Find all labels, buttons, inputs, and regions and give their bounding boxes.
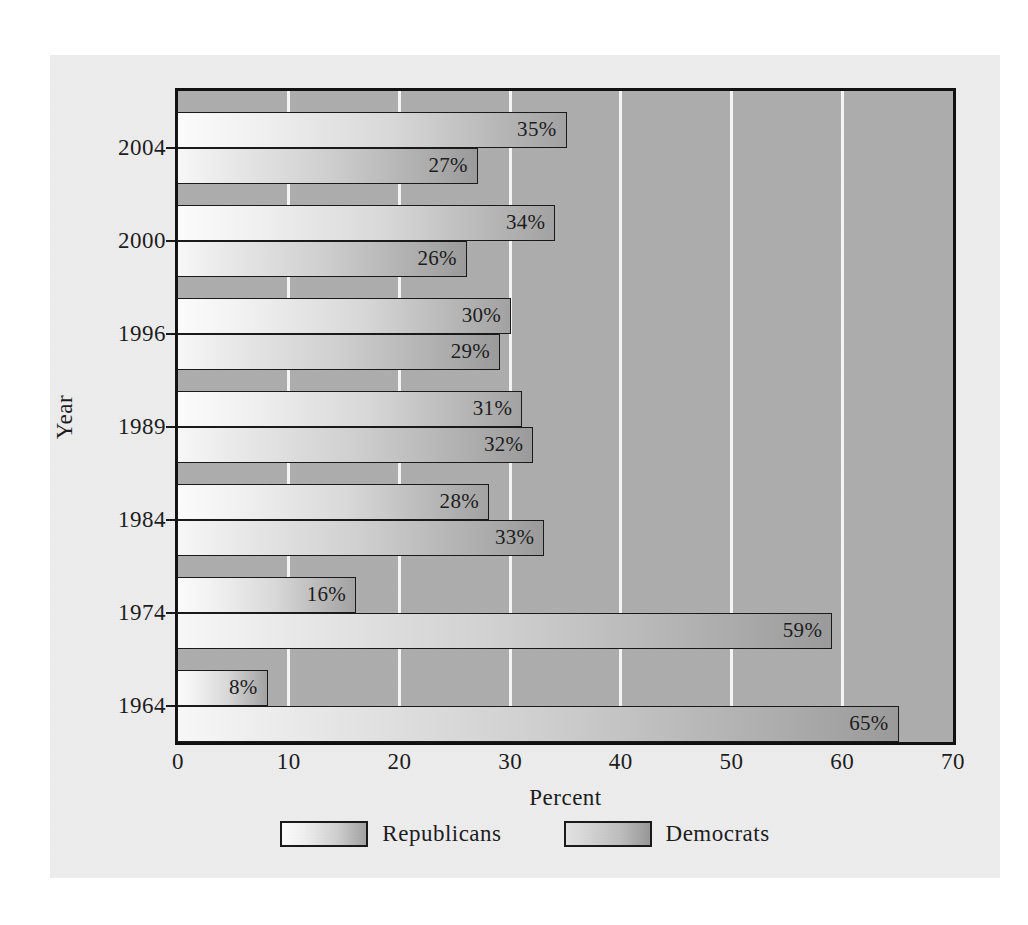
bar-democrats[interactable]: 59% [177, 613, 832, 649]
bar-democrats[interactable]: 33% [177, 520, 544, 556]
bars-layer: 35%27%34%26%30%29%31%32%28%33%16%59%8%65… [178, 91, 953, 742]
y-axis-tick-label: 2004 [118, 135, 166, 161]
bar-group: 34%26% [178, 184, 953, 277]
y-axis-tick-labels: 2004200019961989198419741964 [50, 88, 166, 745]
bar-democrats[interactable]: 29% [177, 334, 500, 370]
bar-value-label: 29% [451, 339, 499, 364]
y-axis-tick-label: 1964 [118, 693, 166, 719]
bar-value-label: 27% [429, 153, 477, 178]
figure-panel: Year 2004200019961989198419741964 35%27%… [50, 55, 1000, 878]
x-axis-tick-label: 40 [609, 749, 633, 775]
bar-group: 28%33% [178, 463, 953, 556]
bar-value-label: 26% [417, 246, 465, 271]
legend-label-democrats: Democrats [666, 821, 770, 847]
legend-swatch-democrats [564, 821, 652, 847]
x-axis-tick-label: 30 [498, 749, 522, 775]
legend-item-republicans: Republicans [280, 821, 501, 847]
y-axis-tick-label: 1989 [118, 414, 166, 440]
bar-value-label: 16% [307, 582, 355, 607]
y-axis-tick-mark [166, 333, 175, 335]
bar-democrats[interactable]: 65% [177, 706, 899, 742]
bar-republicans[interactable]: 30% [177, 298, 511, 334]
legend-label-republicans: Republicans [382, 821, 501, 847]
y-axis-tick-mark [166, 426, 175, 428]
bar-group: 30%29% [178, 277, 953, 370]
y-axis-tick-label: 1996 [118, 321, 166, 347]
bar-democrats[interactable]: 26% [177, 241, 467, 277]
bar-value-label: 59% [783, 618, 831, 643]
x-axis-tick-label: 70 [941, 749, 965, 775]
x-axis-tick-labels: 010203040506070 [175, 749, 956, 783]
y-axis-tick-mark [166, 705, 175, 707]
bar-republicans[interactable]: 31% [177, 391, 522, 427]
legend-item-democrats: Democrats [564, 821, 770, 847]
plot-area: 35%27%34%26%30%29%31%32%28%33%16%59%8%65… [175, 88, 956, 745]
bar-group: 31%32% [178, 370, 953, 463]
bar-democrats[interactable]: 32% [177, 427, 533, 463]
legend: Republicans Democrats [50, 821, 1000, 847]
x-axis-tick-label: 60 [830, 749, 854, 775]
y-axis-tick-label: 1984 [118, 507, 166, 533]
bar-republicans[interactable]: 8% [177, 670, 268, 706]
bar-democrats[interactable]: 27% [177, 148, 478, 184]
bar-value-label: 32% [484, 432, 532, 457]
x-axis-tick-label: 50 [720, 749, 744, 775]
bar-republicans[interactable]: 35% [177, 112, 567, 148]
bar-republicans[interactable]: 34% [177, 205, 555, 241]
y-axis-tick-mark [166, 240, 175, 242]
x-axis-title: Percent [175, 785, 956, 811]
bar-group: 16%59% [178, 556, 953, 649]
bar-value-label: 28% [440, 489, 488, 514]
bar-value-label: 65% [849, 711, 897, 736]
bar-group: 35%27% [178, 91, 953, 184]
y-axis-tick-label: 1974 [118, 600, 166, 626]
bar-republicans[interactable]: 28% [177, 484, 489, 520]
y-axis-tick-label: 2000 [118, 228, 166, 254]
bar-value-label: 33% [495, 525, 543, 550]
bar-value-label: 35% [517, 117, 565, 142]
legend-swatch-republicans [280, 821, 368, 847]
x-axis-tick-label: 0 [172, 749, 184, 775]
x-axis-title-text: Percent [529, 785, 601, 810]
bar-value-label: 31% [473, 396, 521, 421]
y-axis-tick-mark [166, 612, 175, 614]
bar-value-label: 8% [229, 675, 267, 700]
x-axis-tick-label: 20 [387, 749, 411, 775]
y-axis-tick-mark [166, 519, 175, 521]
bar-republicans[interactable]: 16% [177, 577, 356, 613]
x-axis-tick-label: 10 [277, 749, 301, 775]
bar-group: 8%65% [178, 649, 953, 742]
bar-value-label: 34% [506, 210, 554, 235]
y-axis-tick-mark [166, 147, 175, 149]
bar-value-label: 30% [462, 303, 510, 328]
